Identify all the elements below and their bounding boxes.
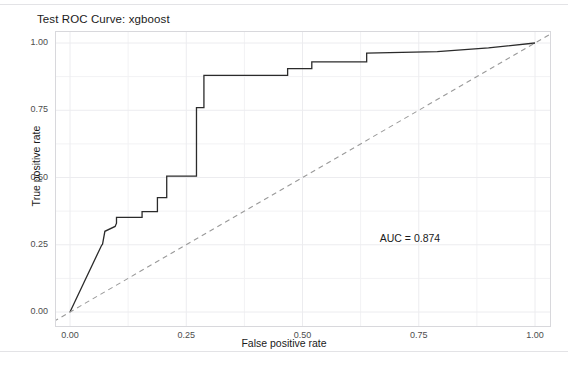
- y-axis-label: True positive rate: [30, 106, 42, 226]
- x-axis-label: False positive rate: [0, 337, 568, 349]
- y-tick-label: 1.00: [14, 37, 48, 47]
- top-divider: [0, 4, 568, 5]
- chart-title: Test ROC Curve: xgboost: [37, 13, 170, 25]
- roc-chart-figure: Test ROC Curve: xgboost 0.000.250.500.75…: [0, 0, 568, 367]
- auc-annotation: AUC = 0.874: [355, 232, 465, 244]
- y-tick-label: 0.25: [14, 239, 48, 249]
- bottom-divider: [0, 351, 568, 352]
- y-tick-label: 0.00: [14, 306, 48, 316]
- plot-panel: [55, 31, 551, 327]
